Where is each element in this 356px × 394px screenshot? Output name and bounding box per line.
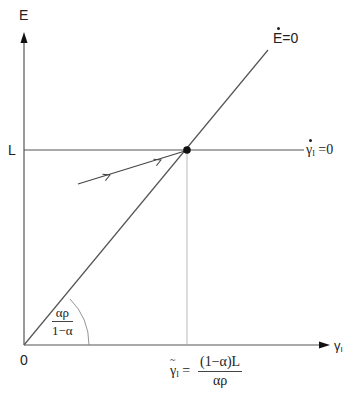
e-dot-zero-rest: =0 — [282, 30, 298, 46]
angle-arc — [70, 299, 89, 345]
steady-state-numerator: (1−α)L — [198, 355, 242, 372]
e-dot-symbol: E — [273, 31, 282, 45]
gamma-dot-zero-rest: =0 — [315, 142, 333, 157]
x-axis-label-sub: I — [341, 345, 343, 354]
trajectory-path — [78, 151, 185, 184]
x-axis-label: γI — [334, 339, 343, 354]
gamma-tilde: γI — [170, 364, 179, 379]
steady-state-sub: I — [176, 370, 179, 379]
steady-state-denominator: αρ — [198, 372, 242, 388]
angle-numerator: αρ — [52, 306, 73, 322]
y-axis-arrowhead-icon — [21, 32, 28, 43]
steady-state-point — [183, 146, 191, 154]
angle-denominator: 1−α — [52, 322, 73, 337]
e-dot-zero-line — [24, 50, 268, 345]
y-axis-label: E — [19, 8, 28, 22]
angle-fraction: αρ 1−α — [52, 306, 73, 337]
steady-state-fraction: (1−α)L αρ — [198, 355, 242, 388]
steady-state-equals: = — [182, 363, 190, 378]
gamma-dot-zero-label: γI =0 — [306, 143, 333, 158]
gamma-dot-symbol: γI — [306, 143, 315, 158]
steady-state-lhs: γI = — [170, 364, 190, 379]
x-axis-arrowhead-icon — [319, 342, 330, 349]
gamma-dot-sub: I — [312, 149, 315, 158]
y-tick-label-L: L — [8, 143, 16, 157]
origin-label: 0 — [20, 353, 28, 367]
e-dot-zero-label: E=0 — [273, 31, 298, 45]
